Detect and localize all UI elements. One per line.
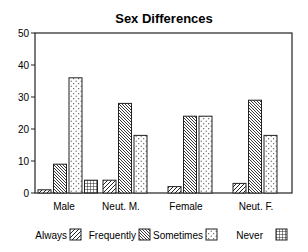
legend-swatch-always [70,229,81,240]
bar-frequently [249,100,262,193]
y-tick-label: 0 [23,188,29,199]
bars [38,78,277,193]
legend-label: Never [236,230,263,241]
category-label: Male [53,201,75,212]
y-tick-label: 40 [18,60,30,71]
bar-never [85,180,98,193]
legend-label: Frequently [89,230,136,241]
legend-swatch-sometimes [206,229,217,240]
bar-frequently [184,116,197,193]
bar-always [168,187,181,193]
category-label: Female [169,201,203,212]
category-label: Neut. F. [239,201,273,212]
bar-sometimes [264,135,277,193]
bar-always [38,190,51,193]
y-tick-label: 30 [18,92,30,103]
y-tick-label: 20 [18,124,30,135]
bar-sometimes [69,78,82,193]
category-labels: MaleNeut. M.FemaleNeut. F. [53,201,273,212]
bar-chart: Sex Differences 01020304050 MaleNeut. M.… [0,0,308,252]
bar-frequently [54,164,67,193]
y-tick-label: 50 [18,28,30,39]
bar-sometimes [199,116,212,193]
y-tick-label: 10 [18,156,30,167]
bar-always [103,180,116,193]
legend-label: Sometimes [153,230,203,241]
chart-title: Sex Differences [115,11,213,26]
legend-swatch-never [276,229,287,240]
category-label: Neut. M. [102,201,140,212]
bar-always [233,183,246,193]
legend: AlwaysFrequentlySometimesNever [35,229,287,241]
bar-frequently [119,103,132,193]
bar-sometimes [134,135,147,193]
legend-label: Always [35,230,67,241]
legend-swatch-frequently [139,229,150,240]
